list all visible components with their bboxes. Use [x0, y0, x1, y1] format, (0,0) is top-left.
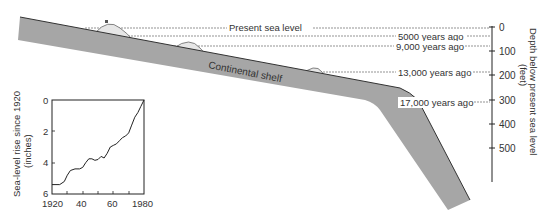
depth-tick-400: 400	[499, 119, 516, 130]
label-9000: 9,000 years ago	[396, 41, 464, 52]
x-tick-1920: 1920	[42, 198, 63, 209]
x-tick-1980: 1980	[132, 198, 153, 209]
sea-level-diagram: Continental shelf Present sea level 5000…	[0, 0, 555, 224]
depth-tick-0: 0	[499, 22, 505, 33]
depth-tick-300: 300	[499, 95, 516, 106]
y-tick-0: 0	[43, 95, 48, 106]
label-present: Present sea level	[229, 22, 302, 33]
inset-chart: 0 2 4 6 1920 40 60 1980 Sea-level rise s…	[11, 91, 153, 209]
depth-tick-500: 500	[499, 143, 516, 154]
inset-y-axis-unit: (inches)	[22, 134, 33, 168]
inset-y-axis-title: Sea-level rise since 1920	[11, 91, 22, 197]
depth-axis-title: Depth below present sea level	[528, 28, 539, 155]
inset-chart-frame	[52, 100, 144, 194]
x-tick-40: 40	[76, 198, 87, 209]
depth-tick-200: 200	[499, 70, 516, 81]
y-tick-2: 2	[43, 126, 48, 137]
marker-icon	[105, 20, 108, 23]
y-tick-4: 4	[43, 157, 48, 168]
depth-axis: 0 100 200 300 400 500 Depth below presen…	[489, 22, 539, 182]
x-tick-60: 60	[107, 198, 118, 209]
label-17000: 17,000 years ago	[400, 97, 473, 108]
label-13000: 13,000 years ago	[398, 67, 471, 78]
depth-tick-100: 100	[499, 46, 516, 57]
depth-axis-unit: (feet)	[518, 64, 529, 86]
